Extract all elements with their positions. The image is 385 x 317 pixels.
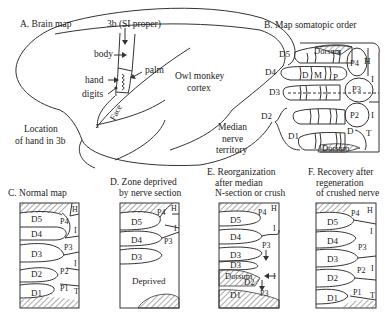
hand-label: hand [85, 75, 104, 85]
panel-e-pad-p3-b: P3 [260, 289, 268, 298]
panel-a-title: A. Brain map [20, 19, 72, 29]
dorsum-bottom-label: Dorsum [322, 143, 350, 153]
panel-f-thenar: T [370, 291, 375, 300]
panel-e-dorsum: Dorsum [225, 271, 253, 281]
panel-b-digit-d2: D2 [261, 111, 272, 121]
panel-c-hypothenar: H [72, 205, 78, 214]
panel-c-pad-p3: P3 [64, 243, 72, 252]
panel-b-pad-p3: P3 [352, 84, 361, 94]
deprived-label: Deprived [132, 276, 166, 286]
segment-proximal: P [333, 72, 338, 82]
location-label-1: Location [24, 124, 58, 134]
panel-d-deprived: D. Zone deprived by nerve section D5 D4 … [110, 177, 182, 308]
panel-b-insular-2: I [371, 110, 374, 120]
panel-d-title-2: by nerve section [119, 188, 182, 198]
panel-e-insular-1: I [273, 224, 276, 233]
brain-outline-left [16, 24, 66, 110]
body-label: body [94, 49, 113, 59]
panel-c-insular-1: I [74, 226, 77, 235]
digit-loops [122, 74, 124, 90]
panel-b-digit-d3: D3 [269, 87, 280, 97]
panel-f-digit-d1: D1 [327, 293, 338, 303]
panel-f-digit-d5: D5 [327, 217, 338, 227]
panel-f-hypothenar: H [367, 206, 373, 215]
panel-f-pad-p2: P2 [357, 266, 365, 275]
panel-f-insular-2: I [371, 264, 374, 273]
panel-c-thenar: T [74, 287, 79, 296]
median-label-3: territory [216, 145, 247, 155]
panel-d-pad-p4: P4 [157, 208, 165, 217]
panel-f-pad-p1: P1 [353, 288, 361, 297]
panel-e-title-3: N-section or crush [215, 188, 285, 198]
panel-c-digit-d5: D5 [31, 214, 42, 224]
panel-e-insular-2: I [273, 272, 276, 281]
panel-f-digit-d3: D3 [327, 254, 338, 264]
area-3b-left [118, 33, 120, 70]
panel-d-insular: I [174, 224, 177, 233]
panel-c-digit-d2: D2 [31, 269, 42, 279]
palm-label: palm [145, 65, 165, 75]
panel-c-digit-d3: D3 [31, 249, 42, 259]
panel-f-digit-d4: D4 [327, 236, 338, 246]
panel-f-pad-p4: P4 [351, 209, 359, 218]
panel-d-digit-d4: D4 [131, 235, 142, 245]
median-brace [275, 108, 300, 150]
panel-e-digit-d3-b: D3 [230, 260, 241, 270]
panel-c-pad-p4: P4 [60, 217, 68, 226]
segment-distal: D [302, 70, 309, 80]
sulcus-2 [115, 120, 165, 160]
segment-middle: M [314, 70, 322, 80]
figure: A. Brain map 3b (SI proper) body palm ha… [0, 0, 385, 317]
panel-e-reorganization: E. Reorganization after median N-section… [207, 167, 285, 308]
panel-c-normal-map: C. Normal map D5 D4 D3 D2 D1 P4 P3 P2 P1… [8, 188, 79, 308]
panel-d-hypothenar: H [171, 204, 177, 213]
panel-b-digit-d1: D1 [288, 131, 299, 141]
digits-label: digits [82, 89, 103, 99]
panel-c-title: C. Normal map [8, 188, 67, 198]
sulcus-1 [96, 100, 165, 125]
panel-c-digit-d1: D1 [31, 288, 42, 298]
panel-b-digit-d4: D4 [265, 67, 276, 77]
panel-d-pad-p3: P3 [164, 237, 172, 246]
panel-b-pad-p2: P2 [350, 110, 359, 120]
panel-e-digit-d5: D5 [230, 215, 241, 225]
panel-b-hypothenar: H [364, 56, 371, 66]
panel-b-d1-pad: D [347, 126, 354, 136]
panel-f-recovery: F. Recovery after regeneration of crushe… [308, 167, 379, 308]
panel-e-hypothenar: H [271, 204, 277, 213]
location-label-2: of hand in 3b [15, 136, 66, 146]
panel-b-digit-d5: D5 [279, 49, 290, 59]
panel-f-insular-1: I [370, 227, 373, 236]
panel-a-brain-map: A. Brain map 3b (SI proper) body palm ha… [15, 8, 295, 168]
d3-finger [283, 85, 340, 100]
panel-b-pad-p4: P4 [350, 58, 360, 68]
cortex-label-2: cortex [187, 83, 211, 93]
panel-e-digit-d3-a: D3 [230, 250, 241, 260]
panel-b-title: B. Map somatopic order [264, 20, 357, 30]
panel-c-pad-p2: P2 [60, 267, 68, 276]
panel-e-pad-p4: P4 [258, 208, 266, 217]
panel-b-somatotopic: B. Map somatopic order D5 D4 D3 D [216, 20, 379, 155]
median-label-1: Median [218, 122, 247, 132]
panel-b-insular-1: I [371, 74, 374, 84]
panel-f-title-3: of crushed nerve [316, 188, 379, 198]
panel-c-digit-d4: D4 [31, 229, 42, 239]
panel-f-title-1: F. Recovery after [308, 167, 374, 177]
panel-e-digit-d1: D1 [230, 290, 241, 300]
panel-e-digit-d4: D4 [230, 232, 241, 242]
area-3b-label: 3b (SI proper) [107, 19, 161, 30]
panel-d-digit-d5: D5 [131, 217, 142, 227]
panel-e-title-2: after median [215, 178, 263, 188]
panel-f-digit-d2: D2 [327, 273, 338, 283]
dorsum-top-label: Dorsum [314, 46, 342, 56]
panel-c-pad-p1: P1 [60, 284, 68, 293]
panel-d-digit-d3: D3 [131, 252, 142, 262]
median-label-2: nerve [222, 134, 243, 144]
panel-e-pad-p3-a: P3 [262, 241, 270, 250]
panel-d-title-1: D. Zone deprived [110, 177, 177, 187]
panel-b-thenar: T [366, 128, 372, 138]
panel-c-insular-2: I [74, 259, 77, 268]
panel-f-pad-p3: P3 [358, 243, 366, 252]
panel-e-title-1: E. Reorganization [207, 167, 276, 177]
panel-f-title-2: regeneration [316, 178, 364, 188]
